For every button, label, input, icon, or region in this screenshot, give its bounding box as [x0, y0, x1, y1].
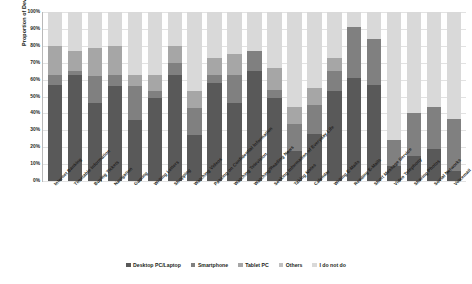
bar-segment[interactable] [347, 27, 361, 78]
stacked-bar[interactable] [447, 12, 461, 181]
bar-segment[interactable] [187, 108, 201, 135]
stacked-bar[interactable] [187, 12, 201, 181]
legend-item[interactable]: Desktop PC/Laptop [126, 262, 181, 268]
bar-slot [45, 12, 65, 181]
stacked-bar[interactable] [128, 12, 142, 181]
bar-segment[interactable] [128, 86, 142, 120]
bar-segment[interactable] [88, 76, 102, 103]
y-axis-tick-label: 100% [27, 10, 40, 15]
bar-segment[interactable] [247, 12, 261, 51]
chart-legend: Desktop PC/LaptopSmartphoneTablet PCOthe… [0, 262, 472, 268]
bar-segment[interactable] [108, 75, 122, 87]
bar-segment[interactable] [48, 46, 62, 75]
y-axis-tick-label: 20% [30, 145, 40, 150]
stacked-bar-chart: Proportion of Device Used 100%90%80%70%6… [0, 0, 472, 284]
bar-segment[interactable] [187, 12, 201, 91]
stacked-bar[interactable] [168, 12, 182, 181]
bar-segment[interactable] [427, 12, 441, 107]
bar-segment[interactable] [68, 12, 82, 51]
bar-segment[interactable] [128, 75, 142, 87]
legend-item[interactable]: Smartphone [191, 262, 228, 268]
stacked-bar[interactable] [148, 12, 162, 181]
bar-segment[interactable] [48, 12, 62, 46]
bar-segment[interactable] [227, 12, 241, 54]
bar-segment[interactable] [227, 75, 241, 104]
bar-segment[interactable] [327, 12, 341, 58]
legend-item[interactable]: Tablet PC [238, 262, 269, 268]
bar-segment[interactable] [347, 12, 361, 27]
bar-segment[interactable] [88, 12, 102, 47]
stacked-bar[interactable] [407, 12, 421, 181]
stacked-bar[interactable] [347, 12, 361, 181]
bar-slot [185, 12, 205, 181]
bar-segment[interactable] [247, 51, 261, 71]
bar-segment[interactable] [148, 91, 162, 98]
bar-segment[interactable] [108, 46, 122, 75]
bar-segment[interactable] [267, 68, 281, 90]
bar-segment[interactable] [267, 12, 281, 68]
legend-swatch-icon [279, 263, 284, 268]
bar-segment[interactable] [367, 39, 381, 85]
bar-segment[interactable] [148, 12, 162, 75]
stacked-bar[interactable] [427, 12, 441, 181]
bar-segment[interactable] [128, 12, 142, 75]
legend-label: Tablet PC [245, 262, 269, 268]
stacked-bar[interactable] [68, 12, 82, 181]
bar-slot [364, 12, 384, 181]
bar-slot [65, 12, 85, 181]
bar-segment[interactable] [327, 58, 341, 72]
bar-segment[interactable] [68, 51, 82, 71]
bar-segment[interactable] [287, 12, 301, 107]
stacked-bar[interactable] [307, 12, 321, 181]
legend-item[interactable]: Others [279, 262, 303, 268]
bar-segment[interactable] [168, 12, 182, 46]
bar-segment[interactable] [307, 88, 321, 105]
bar-slot [444, 12, 464, 181]
bar-segment[interactable] [108, 12, 122, 46]
stacked-bar[interactable] [327, 12, 341, 181]
bar-segment[interactable] [48, 75, 62, 85]
legend-label: Desktop PC/Laptop [133, 262, 181, 268]
y-axis-tick-label: 70% [30, 60, 40, 65]
y-axis-title: Proportion of Device Used [21, 0, 27, 46]
bar-slot [344, 12, 364, 181]
bar-segment[interactable] [168, 63, 182, 75]
bar-segment[interactable] [168, 46, 182, 63]
y-axis-tick-label: 90% [30, 26, 40, 31]
bar-segment[interactable] [187, 135, 201, 181]
legend-swatch-icon [238, 263, 243, 268]
bar-segment[interactable] [307, 12, 321, 88]
bar-segment[interactable] [227, 54, 241, 74]
bar-segment[interactable] [327, 71, 341, 91]
legend-swatch-icon [126, 263, 131, 268]
bar-segment[interactable] [367, 12, 381, 39]
bar-slot [424, 12, 444, 181]
stacked-bar[interactable] [367, 12, 381, 181]
bar-segment[interactable] [427, 107, 441, 149]
bar-segment[interactable] [207, 75, 221, 83]
bar-slot [324, 12, 344, 181]
bar-segment[interactable] [407, 12, 421, 113]
bar-segment[interactable] [447, 12, 461, 118]
bar-segment[interactable] [207, 12, 221, 58]
bar-slot [205, 12, 225, 181]
y-axis-tick-label: 30% [30, 128, 40, 133]
stacked-bar[interactable] [48, 12, 62, 181]
bar-segment[interactable] [327, 91, 341, 181]
legend-swatch-icon [312, 263, 317, 268]
bar-segment[interactable] [307, 105, 321, 134]
legend-item[interactable]: I do not do [312, 262, 346, 268]
stacked-bar[interactable] [108, 12, 122, 181]
bar-segment[interactable] [148, 75, 162, 92]
bar-segment[interactable] [287, 107, 301, 124]
bar-segment[interactable] [187, 91, 201, 108]
bar-segment[interactable] [148, 98, 162, 181]
y-axis-tick-label: 10% [30, 162, 40, 167]
legend-label: Others [286, 262, 303, 268]
bar-slot [165, 12, 185, 181]
bar-segment[interactable] [88, 48, 102, 77]
bar-segment[interactable] [387, 12, 401, 140]
bar-segment[interactable] [267, 90, 281, 98]
bar-segment[interactable] [207, 58, 221, 75]
bar-segment[interactable] [48, 85, 62, 181]
